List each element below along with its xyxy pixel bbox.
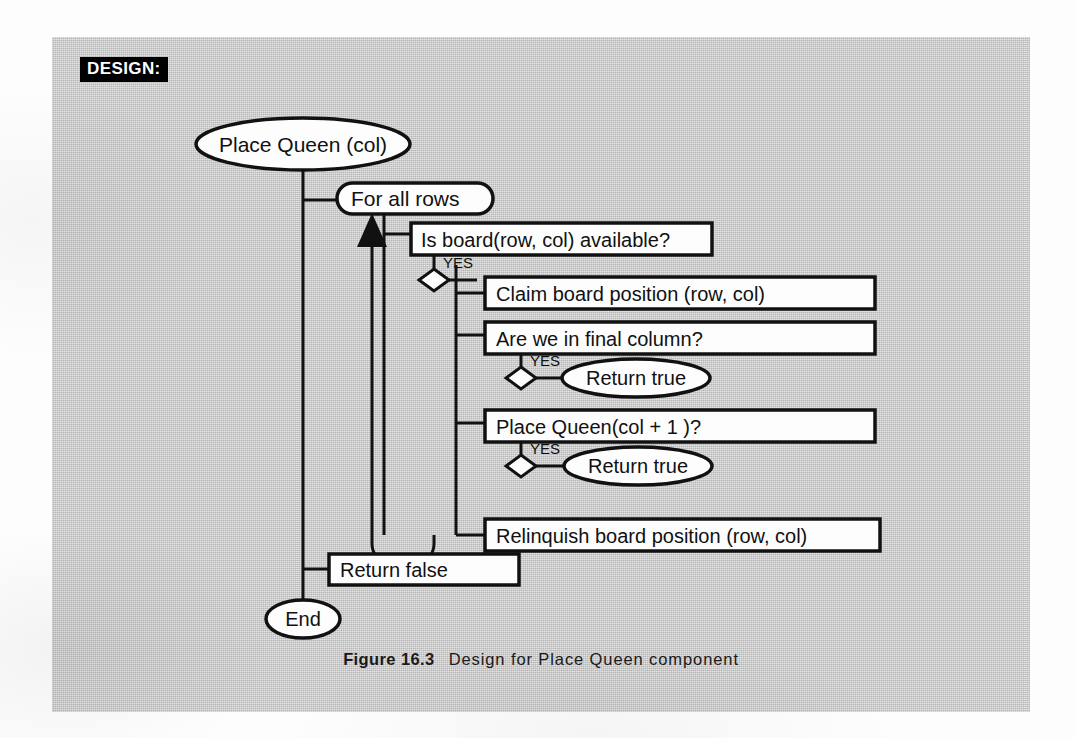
node-return-false: Return false <box>329 554 519 585</box>
node-claim-board-position-label: Claim board position (row, col) <box>496 283 765 305</box>
node-for-all-rows-label: For all rows <box>351 187 460 210</box>
figure-caption-label: Figure 16.3 <box>343 650 435 668</box>
node-place-queen-recursive-label: Place Queen(col + 1 )? <box>496 416 701 438</box>
diamond-decision-1 <box>419 269 449 291</box>
figure-caption-text: Design for Place Queen component <box>449 650 739 668</box>
figure-caption: Figure 16.3Design for Place Queen compon… <box>52 650 1030 669</box>
node-return-true-1: Return true <box>562 359 710 397</box>
node-claim-board-position: Claim board position (row, col) <box>485 277 875 309</box>
flowchart-diagram: Place Queen (col) For all rows Is board(… <box>52 37 1030 712</box>
diamond-decision-2 <box>506 367 536 389</box>
node-return-false-label: Return false <box>340 559 448 581</box>
figure-panel: DESIGN: <box>52 37 1030 712</box>
node-place-queen-recursive: Place Queen(col + 1 )? <box>485 410 875 442</box>
node-are-we-final-column-label: Are we in final column? <box>496 328 703 350</box>
node-end-label: End <box>285 608 321 630</box>
page-background: DESIGN: <box>0 0 1075 738</box>
node-are-we-final-column: Are we in final column? <box>485 322 875 354</box>
design-tag: DESIGN: <box>80 57 168 82</box>
node-relinquish-board-position-label: Relinquish board position (row, col) <box>496 525 807 547</box>
node-place-queen-label: Place Queen (col) <box>219 133 387 156</box>
node-relinquish-board-position: Relinquish board position (row, col) <box>485 519 880 551</box>
node-end: End <box>266 600 340 638</box>
yes-label-1: YES <box>443 254 473 271</box>
yes-label-3: YES <box>530 440 560 457</box>
node-for-all-rows: For all rows <box>337 183 493 214</box>
yes-label-2: YES <box>530 352 560 369</box>
diamond-decision-3 <box>506 455 536 477</box>
node-return-true-1-label: Return true <box>586 367 686 389</box>
node-place-queen: Place Queen (col) <box>196 118 410 170</box>
node-return-true-2: Return true <box>564 447 712 485</box>
node-return-true-2-label: Return true <box>588 455 688 477</box>
node-is-board-available-label: Is board(row, col) available? <box>421 229 670 251</box>
node-is-board-available: Is board(row, col) available? <box>411 223 712 255</box>
